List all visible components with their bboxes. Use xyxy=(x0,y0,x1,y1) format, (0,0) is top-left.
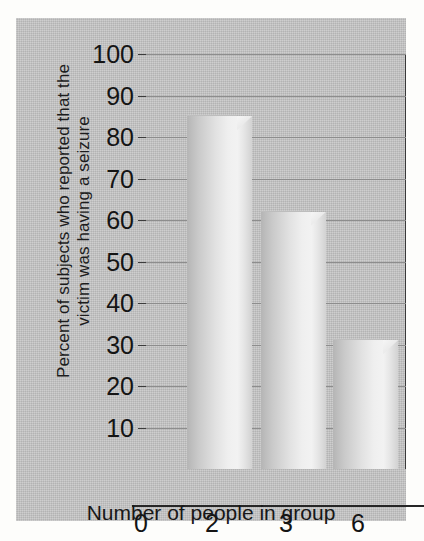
ytick-label-100: 100 xyxy=(92,42,134,67)
chart-panel: Percent of subjects who reported that th… xyxy=(16,18,406,521)
ytick-label-60: 60 xyxy=(106,208,134,233)
plot-area: 100 90 80 70 60 50 40 30 20 xyxy=(146,54,406,469)
ytick-40 xyxy=(138,303,146,304)
x-axis-title: Number of people in group xyxy=(16,501,406,525)
bar-front-face-6 xyxy=(333,339,383,469)
ytick-label-80: 80 xyxy=(106,125,134,150)
ytick-30 xyxy=(138,345,146,346)
ytick-100 xyxy=(138,54,146,55)
ytick-label-20: 20 xyxy=(106,374,134,399)
chart-figure: Percent of subjects who reported that th… xyxy=(0,0,424,541)
bar-group-3 xyxy=(261,212,326,469)
bar-front-face-2 xyxy=(187,115,237,469)
ytick-10 xyxy=(138,428,146,429)
ytick-70 xyxy=(138,179,146,180)
ytick-label-30: 30 xyxy=(106,332,134,357)
gridline-100 xyxy=(146,54,406,55)
ytick-label-10: 10 xyxy=(106,415,134,440)
bar-front-face-3 xyxy=(261,211,311,469)
bar-side-face-2 xyxy=(237,116,252,469)
ytick-label-90: 90 xyxy=(106,83,134,108)
gridline-80 xyxy=(146,137,406,138)
ytick-80 xyxy=(138,137,146,138)
y-axis-title: Percent of subjects who reported that th… xyxy=(54,11,94,431)
ytick-20 xyxy=(138,386,146,387)
gridline-90 xyxy=(146,96,406,97)
bar-group-2 xyxy=(187,116,252,469)
ytick-label-70: 70 xyxy=(106,166,134,191)
ytick-60 xyxy=(138,220,146,221)
ytick-label-50: 50 xyxy=(106,249,134,274)
gridline-70 xyxy=(146,179,406,180)
bar-group-6 xyxy=(333,340,398,469)
ytick-label-40: 40 xyxy=(106,291,134,316)
bar-side-face-6 xyxy=(383,340,398,469)
bar-side-face-3 xyxy=(311,212,326,469)
ytick-50 xyxy=(138,262,146,263)
ytick-90 xyxy=(138,96,146,97)
